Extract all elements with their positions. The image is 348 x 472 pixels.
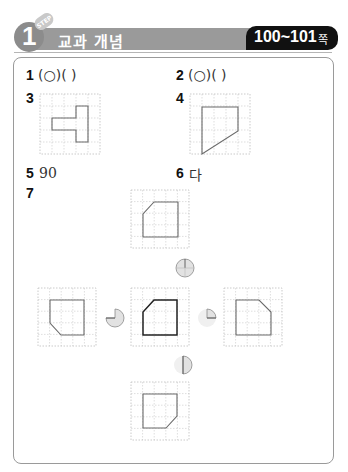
rotation-270-icon	[104, 307, 126, 329]
section-title: 교과 개념	[58, 30, 124, 51]
question-6-number: 6	[176, 165, 184, 181]
question-7-left-grid	[38, 288, 96, 346]
page-badge: 100~101 쪽	[246, 26, 338, 50]
question-6-answer: 다	[189, 164, 202, 184]
header-divider	[14, 52, 332, 53]
question-2-answer: (○)( )	[188, 67, 227, 83]
question-7-number: 7	[26, 185, 34, 201]
rotation-180-icon	[175, 354, 195, 376]
rotation-90-icon	[196, 307, 218, 329]
question-3-grid-drawing	[40, 94, 100, 154]
question-1-answer: (○)( )	[38, 67, 77, 83]
question-5-number: 5	[26, 165, 34, 181]
page-range: 100~101	[254, 28, 317, 46]
question-2-number: 2	[176, 67, 184, 83]
question-3-number: 3	[26, 90, 34, 106]
question-1-number: 1	[26, 67, 34, 83]
question-7-right-grid	[224, 288, 282, 346]
question-7-top-grid	[131, 190, 189, 248]
question-5-answer: 90	[39, 165, 57, 181]
page-unit: 쪽	[318, 31, 328, 47]
question-7-center-grid	[131, 288, 189, 346]
question-4-number: 4	[176, 90, 184, 106]
question-4-grid-drawing	[190, 94, 250, 154]
rotation-360-icon	[175, 258, 195, 278]
question-7-bottom-grid	[131, 382, 189, 440]
